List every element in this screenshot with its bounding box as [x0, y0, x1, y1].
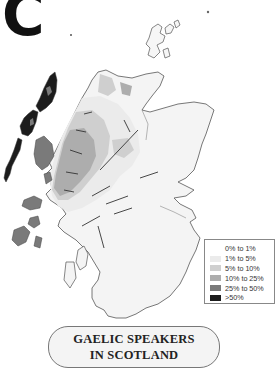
legend-label: 5% to 10% — [225, 264, 260, 273]
legend-label: 0% to 1% — [225, 244, 256, 253]
legend-item: >50% — [210, 293, 270, 303]
orkney-islands — [146, 20, 180, 58]
legend-label: 1% to 5% — [225, 254, 256, 263]
legend-label: 25% to 50% — [225, 284, 264, 293]
legend-label: >50% — [225, 293, 244, 302]
legend-swatch-0-1 — [210, 246, 221, 252]
legend-swatch-1-5 — [210, 256, 221, 262]
map-title-line-2: IN SCOTLAND — [90, 347, 179, 363]
legend-item: 5% to 10% — [210, 264, 270, 274]
map-title-box: GAELIC SPEAKERS IN SCOTLAND — [48, 326, 220, 368]
legend-item: 0% to 1% — [210, 244, 270, 254]
legend-swatch-over-50 — [210, 295, 221, 301]
legend-item: 25% to 50% — [210, 283, 270, 293]
legend-item: 10% to 25% — [210, 273, 270, 283]
map-legend: 0% to 1% 1% to 5% 5% to 10% 10% to 25% 2… — [204, 239, 275, 304]
legend-swatch-5-10 — [210, 265, 221, 271]
scotland-map — [0, 0, 279, 372]
legend-label: 10% to 25% — [225, 274, 264, 283]
legend-swatch-10-25 — [210, 275, 221, 281]
map-title-line-1: GAELIC SPEAKERS — [73, 331, 194, 347]
legend-item: 1% to 5% — [210, 254, 270, 264]
legend-swatch-25-50 — [210, 285, 221, 291]
